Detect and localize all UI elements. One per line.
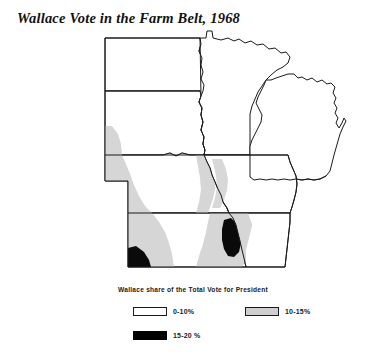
legend-item-10-15: 10-15%: [245, 307, 310, 316]
legend-swatch-black: [133, 331, 167, 340]
state-north-dakota: [105, 38, 204, 91]
legend-label-15-20: 15-20 %: [173, 332, 200, 339]
choropleth-map: [0, 22, 365, 284]
legend-label-0-10: 0-10%: [173, 308, 194, 315]
legend-item-15-20: 15-20 %: [133, 331, 200, 340]
wallace-vote-map-figure: Wallace Vote in the Farm Belt, 1968: [0, 0, 365, 357]
legend-item-0-10: 0-10%: [133, 307, 194, 316]
legend-title: Wallace share of the Total Vote for Pres…: [118, 286, 268, 293]
legend-swatch-gray: [245, 307, 279, 316]
legend-swatch-white: [133, 307, 167, 316]
legend-label-10-15: 10-15%: [285, 308, 310, 315]
